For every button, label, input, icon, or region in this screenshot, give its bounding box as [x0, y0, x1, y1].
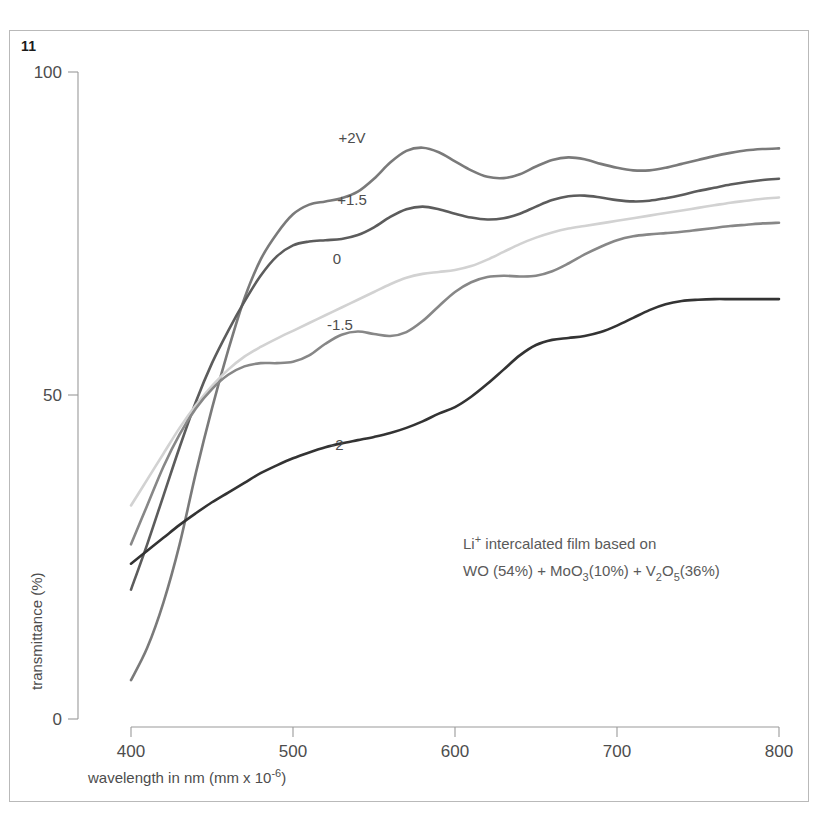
annotation-line-1: Li+ intercalated film based on [463, 533, 656, 552]
x-axis-title-suffix: ) [281, 769, 286, 786]
data-curves [131, 148, 779, 681]
curve-labels: +2V+1.50-1.5-2 [327, 129, 367, 453]
annotation-line-2: WO (54%) + MoO3(10%) + V2O5(36%) [463, 562, 720, 583]
x-axis-title-exponent: -6 [271, 767, 281, 779]
x-tick-label-400: 400 [117, 742, 145, 761]
annotation-block: Li+ intercalated film based on WO (54%) … [463, 533, 720, 583]
curve-label--2: -2 [330, 436, 343, 453]
x-tick-label-700: 700 [603, 742, 631, 761]
curve-2v [131, 148, 779, 681]
x-axis-title: wavelength in nm (mm x 10-6) [87, 767, 286, 786]
transmittance-spectra-chart: 100 50 0 transmittance (%) 400 500 600 7… [0, 0, 820, 834]
x-axis-title-prefix: wavelength in nm (mm x 10 [87, 769, 271, 786]
annotation-line2-part1: WO (54%) + MoO [463, 562, 583, 579]
curve-label--15: -1.5 [327, 316, 353, 333]
annotation-line2-part4: (36%) [680, 562, 720, 579]
annotation-line2-part3: O [662, 562, 674, 579]
curve-label-2v: +2V [338, 129, 365, 146]
y-tick-label-0: 0 [53, 710, 62, 729]
y-axis-title: transmittance (%) [28, 572, 45, 690]
y-axis: 100 50 0 transmittance (%) [28, 63, 78, 729]
curve-label-0: 0 [333, 250, 341, 267]
y-tick-label-100: 100 [34, 63, 62, 82]
x-axis: 400 500 600 700 800 wavelength in nm (mm… [87, 727, 793, 786]
annotation-line1-suffix: intercalated film based on [481, 535, 656, 552]
annotation-line1-prefix: Li [463, 535, 475, 552]
x-tick-label-500: 500 [279, 742, 307, 761]
x-tick-label-800: 800 [765, 742, 793, 761]
y-tick-label-50: 50 [43, 386, 62, 405]
annotation-line2-part2: (10%) + V [589, 562, 656, 579]
curve-label-15: +1.5 [337, 191, 367, 208]
curve-15 [131, 179, 779, 590]
x-tick-label-600: 600 [441, 742, 469, 761]
curve--2 [131, 299, 779, 564]
